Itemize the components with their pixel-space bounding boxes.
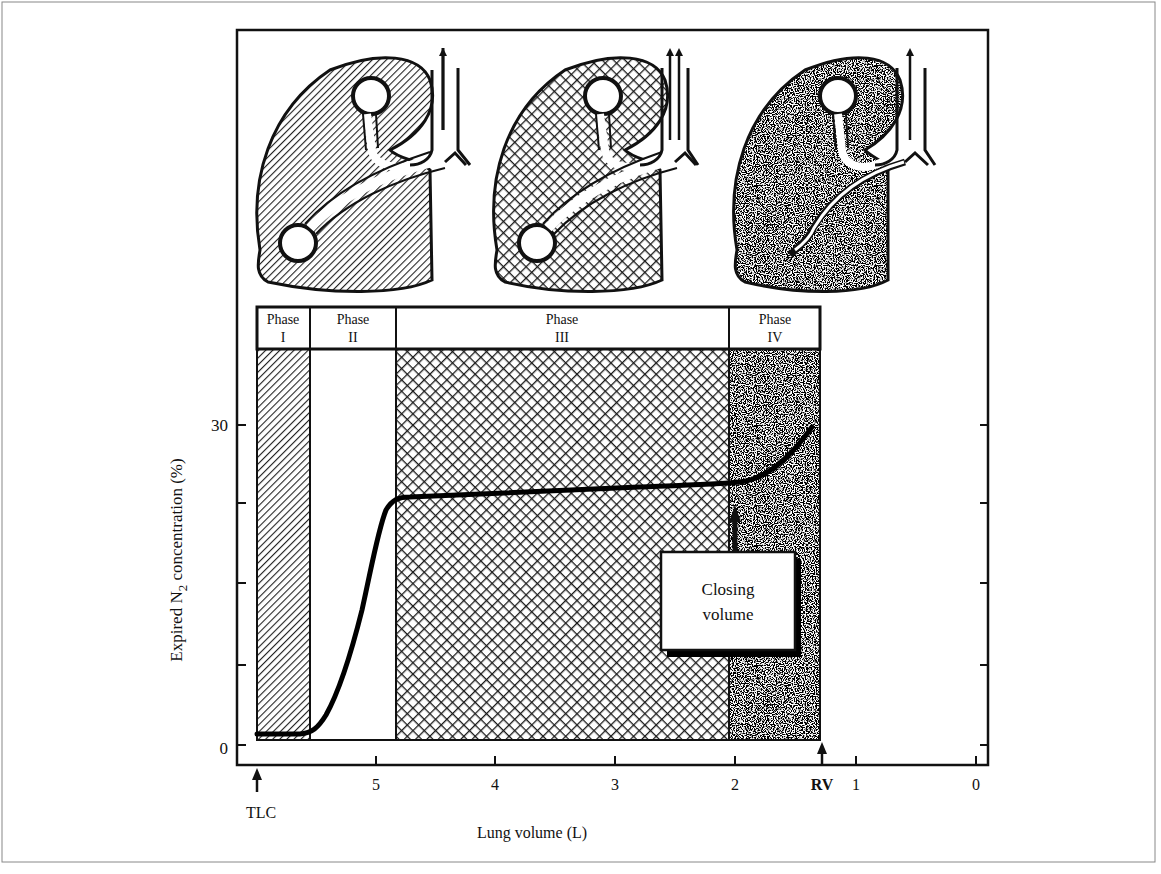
lower-alveolus: [519, 225, 555, 261]
phase-1-region: [257, 349, 310, 740]
phase-2-numeral: II: [348, 330, 358, 345]
phase-3-numeral: III: [555, 330, 569, 345]
phase-2-label: Phase: [337, 312, 370, 327]
y-axis-title: Expired N2 concentration (%): [167, 458, 190, 661]
phase-4-numeral: IV: [768, 330, 783, 345]
svg-text:2: 2: [731, 776, 739, 793]
phase-2-region: [310, 349, 396, 740]
phase-1-label: Phase: [267, 312, 300, 327]
phase-3-label: Phase: [546, 312, 579, 327]
phase-3-region: [396, 349, 729, 740]
svg-text:4: 4: [491, 776, 499, 793]
tlc-label: TLC: [246, 804, 276, 821]
lower-alveolus: [280, 225, 316, 261]
svg-text:0: 0: [972, 776, 980, 793]
x-tick-labels: 5 4 3 2 RV 1 0 TLC: [246, 776, 980, 821]
svg-text:5: 5: [372, 776, 380, 793]
svg-text:3: 3: [611, 776, 619, 793]
y-tick-30: 30: [211, 416, 228, 435]
n2-washout-figure: Phase I Phase II Phase III Phase IV Clos…: [0, 0, 1161, 874]
x-axis: [376, 756, 976, 765]
phase-header: Phase I Phase II Phase III Phase IV: [257, 307, 820, 349]
rv-label: RV: [811, 776, 834, 793]
phase-4-label: Phase: [759, 312, 792, 327]
lung-illustration-2: [494, 52, 698, 292]
y-tick-0: 0: [220, 739, 229, 758]
lung-illustration-1: [257, 48, 470, 292]
upper-alveolus: [353, 78, 389, 114]
closing-volume-line1: Closing: [702, 580, 755, 599]
phase-4-region: [729, 349, 820, 740]
upper-alveolus: [585, 78, 621, 114]
closing-volume-line2: volume: [703, 605, 754, 624]
phase-1-numeral: I: [281, 330, 286, 345]
svg-text:1: 1: [852, 776, 860, 793]
lung-illustration-3: [734, 52, 935, 292]
x-axis-title: Lung volume (L): [477, 824, 587, 842]
upper-alveolus: [820, 78, 856, 114]
